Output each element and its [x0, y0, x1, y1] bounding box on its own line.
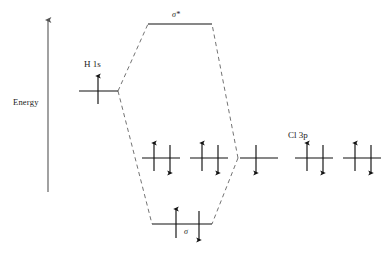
sigma-star-label: σ*: [172, 11, 180, 19]
mo-diagram-canvas: [0, 0, 387, 253]
correlation-h1s-to-sigma-star: [118, 24, 148, 91]
correlation-lines: [118, 24, 238, 224]
sigma-bonding-label-text: σ: [184, 227, 188, 236]
correlation-cl3p-to-sigma-bonding: [212, 158, 238, 224]
cl-3p-label-text: Cl 3p: [288, 130, 308, 140]
h-1s-label: H 1s: [84, 60, 101, 69]
cl-3p-label: Cl 3p: [288, 131, 308, 140]
energy-axis-label: Energy: [13, 98, 39, 107]
energy-level-lines: [79, 24, 381, 224]
sigma-star-label-text: σ*: [172, 10, 180, 19]
h-1s-label-text: H 1s: [84, 59, 101, 69]
correlation-cl3p-to-sigma-star: [212, 24, 238, 158]
sigma-bonding-label: σ: [184, 228, 188, 236]
mo-diagram-figure: Energy H 1s Cl 3p σ* σ: [0, 0, 387, 253]
